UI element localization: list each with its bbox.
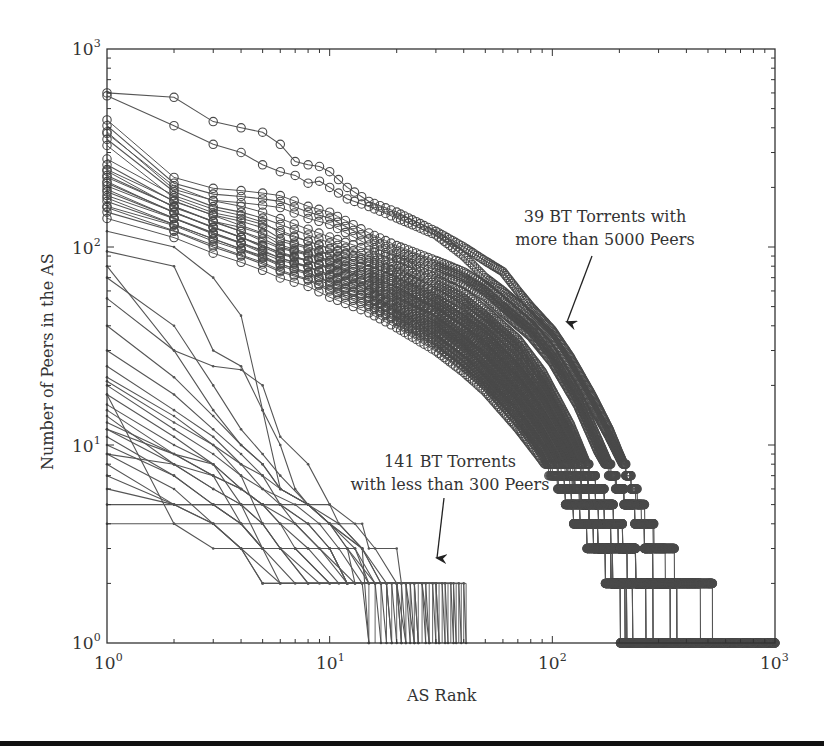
data-point: [212, 463, 215, 466]
data-point: [173, 409, 176, 412]
series-line-small-20: [107, 476, 392, 643]
y-tick-1: 100: [72, 632, 101, 653]
y-tick-100: 102: [72, 237, 101, 258]
y-tick-1000: 103: [72, 38, 101, 59]
data-point: [212, 436, 215, 439]
y-axis-title: Number of Peers in the AS: [38, 253, 57, 470]
series-line-small-7: [107, 351, 418, 644]
x-tick-100: 102: [538, 652, 567, 673]
annotation-small-torrents: 141 BT Torrents with less than 300 Peers: [340, 450, 560, 496]
annotation-large-torrents: 39 BT Torrents with more than 5000 Peers: [500, 205, 710, 251]
page-divider-rule: [0, 741, 824, 746]
data-point: [368, 547, 371, 550]
data-point: [212, 428, 215, 431]
data-point: [173, 453, 176, 456]
y-tick-10: 101: [72, 435, 101, 456]
data-point: [240, 547, 243, 550]
data-point: [173, 265, 176, 268]
data-point: [240, 488, 243, 491]
data-point: [307, 582, 310, 585]
data-point: [261, 582, 264, 585]
data-point: [240, 365, 243, 368]
data-point: [240, 368, 243, 371]
data-point: [307, 522, 310, 525]
arrow-small-annotation: [437, 498, 444, 558]
data-point: [279, 474, 282, 477]
data-point: [261, 547, 264, 550]
data-point: [173, 474, 176, 477]
data-point: [279, 444, 282, 447]
data-point: [261, 522, 264, 525]
series-line-small-28: [107, 381, 369, 643]
data-point: [173, 444, 176, 447]
data-point: [173, 488, 176, 491]
data-point: [212, 365, 215, 368]
series-group-large-torrents: [103, 89, 779, 648]
data-point: [173, 376, 176, 379]
data-point: [279, 547, 282, 550]
data-point: [261, 488, 264, 491]
data-point: [279, 503, 282, 506]
data-point: [173, 428, 176, 431]
data-point: [240, 453, 243, 456]
data-point: [173, 349, 176, 352]
data-point: [173, 503, 176, 506]
data-point: [240, 503, 243, 506]
data-point: [328, 503, 331, 506]
data-point: [261, 384, 264, 387]
data-point: [261, 503, 264, 506]
x-axis-title: AS Rank: [407, 686, 477, 705]
data-point: [212, 276, 215, 279]
arrow-large-annotation: [567, 256, 592, 322]
annotation-large-line1: 39 BT Torrents with: [500, 205, 710, 228]
data-point: [261, 474, 264, 477]
data-point: [240, 428, 243, 431]
annotation-small-line2: with less than 300 Peers: [340, 473, 560, 496]
data-point: [261, 453, 264, 456]
series-line-large-2: [107, 96, 765, 643]
series-line-replica: [107, 120, 753, 643]
data-point: [361, 547, 364, 550]
data-point: [240, 522, 243, 525]
x-tick-10: 101: [316, 652, 345, 673]
data-point: [346, 547, 349, 550]
data-point: [212, 547, 215, 550]
series-line-small-22: [107, 505, 369, 643]
data-point: [212, 488, 215, 491]
data-point: [240, 463, 243, 466]
data-point: [240, 314, 243, 317]
data-point: [354, 547, 357, 550]
x-tick-1: 100: [94, 652, 123, 673]
data-point: [212, 384, 215, 387]
data-point: [212, 503, 215, 506]
data-point: [294, 522, 297, 525]
data-point: [361, 522, 364, 525]
data-point: [173, 246, 176, 249]
data-point: [173, 463, 176, 466]
data-point: [240, 474, 243, 477]
x-tick-1000: 103: [760, 652, 789, 673]
series-line-small-11: [107, 395, 456, 644]
data-point: [328, 547, 331, 550]
data-point: [173, 436, 176, 439]
chart-canvas: [0, 0, 824, 750]
data-point: [212, 415, 215, 418]
data-point: [294, 547, 297, 550]
data-point: [212, 349, 215, 352]
data-point: [212, 453, 215, 456]
data-point: [173, 415, 176, 418]
data-point: [212, 444, 215, 447]
data-point: [212, 409, 215, 412]
annotation-small-line1: 141 BT Torrents: [340, 450, 560, 473]
data-point: [240, 444, 243, 447]
data-point: [318, 547, 321, 550]
data-point: [307, 547, 310, 550]
data-point: [212, 522, 215, 525]
data-point: [261, 463, 264, 466]
data-point: [395, 547, 398, 550]
data-point: [279, 488, 282, 491]
data-point: [173, 421, 176, 424]
data-point: [279, 436, 282, 439]
data-point: [173, 324, 176, 327]
data-point: [173, 393, 176, 396]
